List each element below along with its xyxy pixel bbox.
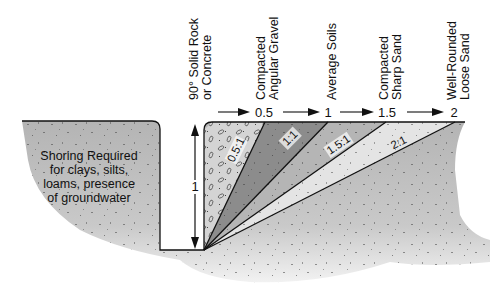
svg-text:Average Soils: Average Soils	[325, 23, 339, 100]
category-label-angular-gravel: Compacted Angular Gravel	[254, 17, 281, 100]
arrow-right-icon	[238, 108, 250, 116]
tick-1.5: 1.5	[378, 105, 396, 120]
category-label-sharp-sand: Compacted Sharp Sand	[377, 34, 404, 100]
svg-text:or Concrete: or Concrete	[200, 35, 214, 100]
arrow-right-icon	[432, 108, 444, 116]
category-label-loose-sand: Well-Rounded Loose Sand	[445, 21, 472, 100]
arrow-right-icon	[362, 108, 374, 116]
vertical-label: 1	[191, 179, 198, 194]
svg-text:loams, presence: loams, presence	[43, 177, 135, 191]
svg-text:for clays, silts,: for clays, silts,	[50, 163, 129, 177]
svg-text:Compacted: Compacted	[377, 36, 391, 100]
tick-1: 1	[324, 105, 331, 120]
svg-text:90° Solid Rock: 90° Solid Rock	[187, 17, 201, 100]
shoring-note: Shoring Required for clays, silts, loams…	[40, 149, 137, 205]
arrow-right-icon	[308, 108, 320, 116]
category-label-solid-rock: 90° Solid Rock or Concrete	[187, 17, 214, 100]
svg-text:Loose Sand: Loose Sand	[458, 33, 472, 100]
svg-text:Shoring Required: Shoring Required	[40, 149, 137, 163]
svg-text:of groundwater: of groundwater	[47, 191, 130, 205]
tick-0.5: 0.5	[255, 105, 273, 120]
svg-text:Angular Gravel: Angular Gravel	[267, 17, 281, 100]
excavation-slope-diagram: 1 0.5 1 1.5 2 90° Solid Rock or Concrete…	[0, 0, 490, 290]
category-label-average-soils: Average Soils	[325, 23, 339, 100]
tick-2: 2	[450, 105, 457, 120]
svg-text:Sharp Sand: Sharp Sand	[390, 34, 404, 100]
svg-text:Well-Rounded: Well-Rounded	[445, 21, 459, 100]
svg-text:Compacted: Compacted	[254, 36, 268, 100]
